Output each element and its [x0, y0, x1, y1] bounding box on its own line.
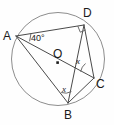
point-label-A: A	[3, 29, 11, 43]
center-point-dot	[56, 61, 59, 64]
chord-DC	[84, 25, 94, 78]
diagram-canvas: A D C B O 40° x x	[0, 0, 114, 125]
angle-label-C: x	[75, 56, 80, 66]
angle-arc-C	[81, 64, 86, 72]
point-label-O: O	[53, 47, 62, 61]
chord-AD	[16, 25, 84, 36]
point-label-D: D	[83, 6, 92, 20]
point-label-C: C	[96, 77, 105, 91]
point-label-B: B	[64, 108, 72, 122]
angle-label-B: x	[61, 84, 66, 94]
geometry-diagram: A D C B O 40° x x	[0, 0, 114, 125]
angle-label-A: 40°	[31, 33, 45, 43]
